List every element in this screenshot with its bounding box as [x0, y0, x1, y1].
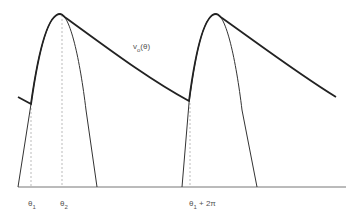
axis-label-theta1-plus-2pi: θ1 + 2π — [189, 200, 216, 210]
output-voltage-curve — [18, 14, 336, 104]
theta2-sub: 2 — [64, 204, 67, 210]
axis-label-theta2: θ2 — [60, 200, 68, 210]
axis-label-theta1: θ1 — [28, 200, 36, 210]
curve-label-vo: vo(θ) — [133, 43, 150, 53]
source-pulse-2 — [182, 14, 257, 187]
source-pulse-1 — [18, 14, 97, 187]
waveform-diagram — [0, 0, 364, 222]
theta1-sub: 1 — [32, 204, 35, 210]
theta1-2pi-suffix: + 2π — [197, 199, 216, 208]
curve-label-suffix: (θ) — [140, 42, 150, 51]
